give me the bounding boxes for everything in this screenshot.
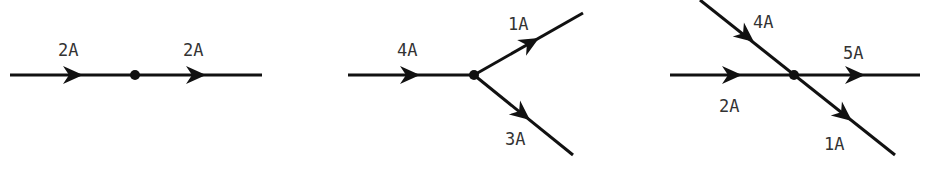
junction-node	[130, 70, 140, 80]
current-label-in: 2A	[58, 40, 78, 60]
current-label-horiz-out: 5A	[843, 43, 863, 63]
diagram-crossing-junction: 4A 2A 5A 1A	[670, 0, 920, 155]
diagram-series-junction: 2A 2A	[10, 40, 262, 84]
current-label-diag-in: 4A	[753, 12, 773, 32]
current-label-lower-out: 3A	[505, 129, 525, 149]
diagram-split-junction: 4A 1A 3A	[348, 13, 583, 155]
junction-node	[789, 70, 799, 80]
current-arrow-icon	[517, 30, 543, 56]
kirchhoff-current-diagrams: 2A 2A 4A 1A 3A 4A 2A 5A 1A	[0, 0, 933, 174]
current-label-in: 4A	[397, 40, 417, 60]
current-label-out: 2A	[183, 40, 203, 60]
current-label-upper-out: 1A	[508, 14, 528, 34]
current-label-horiz-in: 2A	[719, 96, 739, 116]
current-label-diag-out: 1A	[824, 134, 844, 154]
junction-node	[469, 70, 479, 80]
